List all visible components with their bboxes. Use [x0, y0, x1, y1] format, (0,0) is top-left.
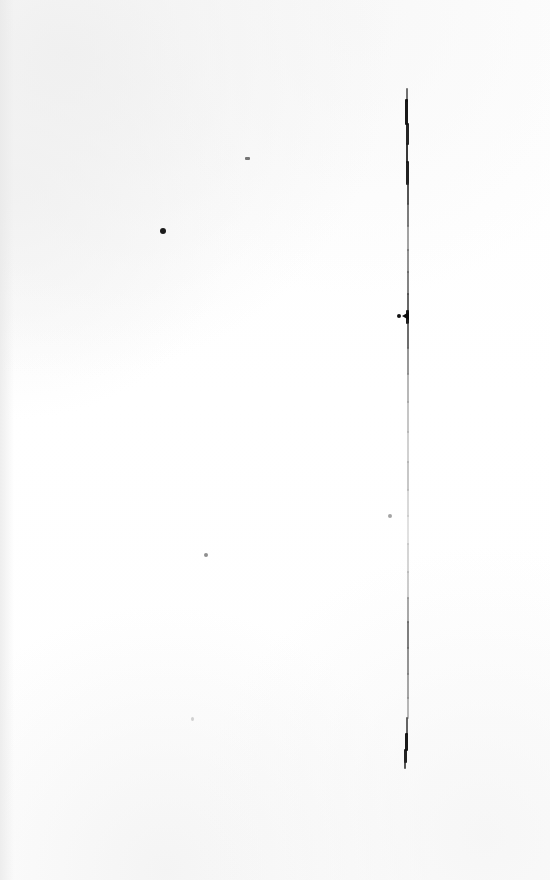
speck-mid-left [388, 514, 392, 518]
ink-segment-upper-dark-1 [405, 99, 408, 125]
ink-segment-upper-dark-2 [406, 123, 409, 145]
ink-segment-lower-grey-4 [407, 673, 409, 699]
ink-segment-fade-4 [407, 461, 409, 491]
ink-segment-fade-2 [407, 401, 409, 433]
ink-segment-fade-7 [407, 543, 409, 573]
ink-segment-fade-3 [407, 431, 409, 463]
ink-segment-below-blob-1 [407, 323, 409, 349]
ink-segment-mid-grey-3 [407, 271, 409, 295]
ink-segment-upper-mid-2 [407, 203, 409, 227]
ink-segment-lower-grey-5 [407, 697, 409, 719]
ink-segment-fade-1 [407, 373, 409, 403]
ink-segment-lower-grey-2 [407, 621, 409, 649]
ink-blob-dot [397, 314, 401, 318]
speck-upper-dot [160, 228, 166, 234]
ink-segment-lower-grey-1 [407, 597, 409, 623]
speck-lower-faint [191, 717, 194, 721]
ink-blob-wedge [402, 312, 409, 320]
speck-upper-dash [245, 157, 250, 160]
ink-segment-fade-6 [407, 515, 409, 545]
ink-segment-upper-dark-3 [406, 143, 408, 163]
speck-mid-dot [204, 553, 208, 557]
ink-segment-fade-5 [407, 489, 409, 517]
ink-segment-lower-grey-3 [407, 647, 409, 675]
ink-segment-fade-8 [407, 571, 409, 599]
ink-segment-upper-dark-4 [406, 161, 409, 185]
ink-segment-below-blob-2 [407, 347, 409, 375]
ink-segment-upper-mid-1 [407, 183, 409, 205]
scan-edge-shadow [0, 0, 14, 880]
ink-segment-mid-grey-1 [407, 225, 409, 251]
scanned-page-canvas [0, 0, 550, 880]
ink-segment-mid-grey-2 [407, 249, 409, 273]
ink-segment-bottom-tip [404, 761, 406, 769]
paper-texture-overlay [0, 0, 550, 880]
